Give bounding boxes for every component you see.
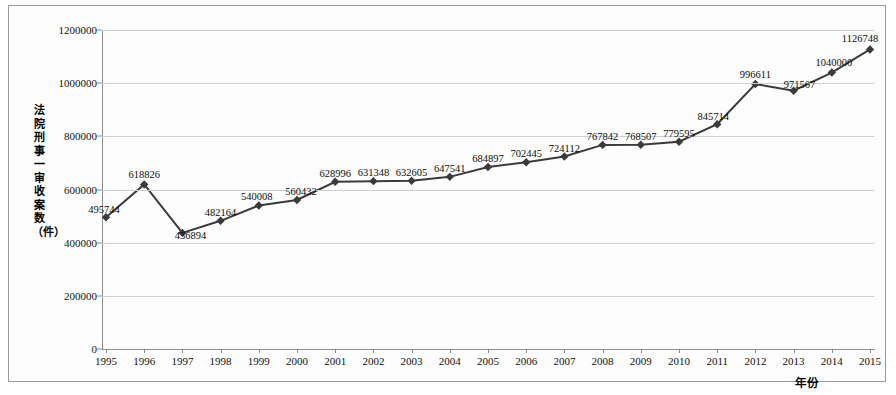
x-tick-mark — [870, 349, 871, 353]
x-tick-label: 2000 — [286, 355, 308, 367]
data-point-marker[interactable] — [560, 152, 568, 160]
x-tick-mark — [564, 349, 565, 353]
x-tick-label: 2001 — [324, 355, 346, 367]
data-point-label: 482164 — [205, 207, 237, 218]
data-point-label: 1040000 — [815, 57, 852, 68]
x-tick-mark — [450, 349, 451, 353]
y-tick-label: 200000 — [64, 290, 97, 302]
x-tick-mark — [679, 349, 680, 353]
y-tick-mark — [97, 295, 102, 296]
x-tick-label: 2009 — [630, 355, 652, 367]
data-point-label: 436894 — [175, 230, 207, 241]
x-tick-mark — [106, 349, 107, 353]
data-point-label: 779595 — [663, 128, 695, 139]
x-tick-mark — [182, 349, 183, 353]
x-tick-mark — [335, 349, 336, 353]
data-point-marker[interactable] — [255, 201, 263, 209]
x-tick-label: 2007 — [553, 355, 575, 367]
data-point-marker[interactable] — [446, 173, 454, 181]
y-tick-mark — [97, 349, 102, 350]
data-point-label: 684897 — [472, 153, 504, 164]
data-point-marker[interactable] — [484, 163, 492, 171]
gridline — [102, 243, 874, 244]
x-tick-mark — [144, 349, 145, 353]
x-tick-label: 2003 — [401, 355, 423, 367]
x-tick-label: 1996 — [133, 355, 155, 367]
data-point-label: 618826 — [128, 169, 160, 180]
data-point-marker[interactable] — [216, 217, 224, 225]
data-point-label: 495744 — [88, 204, 120, 215]
data-point-marker[interactable] — [331, 178, 339, 186]
data-point-label: 768507 — [625, 131, 657, 142]
data-point-marker[interactable] — [522, 158, 530, 166]
y-tick-label: 1000000 — [59, 77, 98, 89]
y-tick-label: 1200000 — [59, 24, 98, 36]
x-tick-label: 2014 — [821, 355, 843, 367]
x-tick-label: 2002 — [362, 355, 384, 367]
x-tick-mark — [641, 349, 642, 353]
data-point-label: 628996 — [319, 168, 351, 179]
data-point-label: 540008 — [241, 191, 273, 202]
data-point-label: 996611 — [740, 69, 771, 80]
gridline — [102, 296, 874, 297]
chart-frame: 020000040000060000080000010000001200000 … — [8, 5, 886, 382]
x-tick-mark — [794, 349, 795, 353]
x-tick-mark — [526, 349, 527, 353]
x-tick-label: 1995 — [95, 355, 117, 367]
x-tick-label: 2012 — [744, 355, 766, 367]
x-tick-mark — [488, 349, 489, 353]
y-axis-title: 法院刑事一审收案数（件） — [32, 104, 47, 239]
x-tick-label: 1997 — [171, 355, 193, 367]
data-point-label: 631348 — [358, 167, 390, 178]
data-point-label: 560432 — [285, 186, 317, 197]
x-tick-label: 2004 — [439, 355, 461, 367]
gridline — [102, 83, 874, 84]
x-tick-label: 2015 — [859, 355, 881, 367]
x-tick-label: 2011 — [706, 355, 728, 367]
y-tick-mark — [97, 189, 102, 190]
plot-area: 4957446188264368944821645400085604326289… — [102, 30, 874, 349]
x-tick-mark — [412, 349, 413, 353]
x-tick-label: 2006 — [515, 355, 537, 367]
gridline — [102, 190, 874, 191]
y-tick-mark — [97, 136, 102, 137]
data-point-label: 724112 — [549, 143, 580, 154]
data-point-label: 632605 — [396, 167, 428, 178]
x-axis-title: 年份 — [795, 374, 819, 390]
data-point-marker[interactable] — [293, 196, 301, 204]
y-tick-label: 800000 — [64, 130, 97, 142]
x-tick-label: 2005 — [477, 355, 499, 367]
y-tick-label: 400000 — [64, 237, 97, 249]
x-tick-mark — [373, 349, 374, 353]
x-tick-label: 2013 — [783, 355, 805, 367]
x-tick-mark — [755, 349, 756, 353]
data-point-label: 971567 — [784, 79, 816, 90]
x-tick-label: 2010 — [668, 355, 690, 367]
x-tick-mark — [832, 349, 833, 353]
data-point-label: 767842 — [587, 131, 619, 142]
x-tick-label: 1999 — [248, 355, 270, 367]
data-point-marker[interactable] — [407, 177, 415, 185]
y-tick-mark — [97, 242, 102, 243]
data-point-label: 845714 — [697, 111, 729, 122]
x-tick-mark — [221, 349, 222, 353]
data-point-marker[interactable] — [369, 177, 377, 185]
x-tick-mark — [603, 349, 604, 353]
x-tick-label: 2008 — [592, 355, 614, 367]
x-tick-label: 1998 — [210, 355, 232, 367]
gridline — [102, 136, 874, 137]
x-tick-mark — [297, 349, 298, 353]
data-point-label: 1126748 — [842, 33, 878, 44]
y-tick-mark — [97, 83, 102, 84]
gridline — [102, 30, 874, 31]
data-point-label: 702445 — [510, 148, 542, 159]
x-tick-mark — [717, 349, 718, 353]
y-axis-tick-labels: 020000040000060000080000010000001200000 — [9, 6, 97, 395]
data-point-marker[interactable] — [637, 141, 645, 149]
y-tick-mark — [97, 30, 102, 31]
y-tick-label: 600000 — [64, 184, 97, 196]
x-tick-mark — [259, 349, 260, 353]
data-point-marker[interactable] — [598, 141, 606, 149]
data-point-label: 647541 — [434, 163, 466, 174]
data-point-marker[interactable] — [675, 138, 683, 146]
